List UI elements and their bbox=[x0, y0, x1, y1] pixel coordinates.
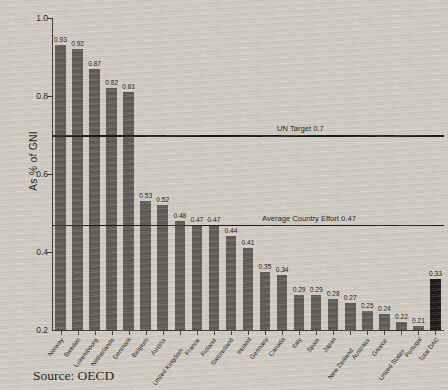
x-axis-category-label: United States bbox=[377, 347, 406, 381]
bar-value-label: 0.22 bbox=[395, 313, 408, 320]
y-axis-tick-label: 1.0 bbox=[22, 13, 48, 23]
bar bbox=[260, 272, 271, 331]
x-axis-tick-mark bbox=[384, 330, 385, 335]
x-axis-tick-mark bbox=[418, 330, 419, 335]
bar-value-label: 0.29 bbox=[293, 286, 306, 293]
reference-line-label: UN Target 0.7 bbox=[277, 124, 324, 133]
x-axis-category-label: Japan bbox=[321, 336, 337, 354]
bar bbox=[226, 236, 237, 330]
x-axis-category-label: Austria bbox=[149, 336, 167, 356]
bar bbox=[72, 49, 83, 330]
bar-value-label: 0.29 bbox=[310, 286, 323, 293]
bar-value-label: 0.33 bbox=[429, 270, 442, 277]
bar bbox=[140, 201, 151, 330]
bar-value-label: 0.81 bbox=[122, 83, 135, 90]
y-axis-tick-label: 0.8 bbox=[22, 91, 48, 101]
x-axis-tick-mark bbox=[78, 330, 79, 335]
x-axis-tick-mark bbox=[401, 330, 402, 335]
bar-value-label: 0.92 bbox=[71, 40, 84, 47]
reference-line bbox=[52, 225, 444, 227]
oda-gni-bar-chart: As % of GNI 1.00.80.60.40.2 0.930.920.87… bbox=[0, 0, 448, 390]
bar-value-label: 0.87 bbox=[88, 60, 101, 67]
x-axis-category-label: Italy bbox=[290, 336, 303, 349]
x-axis-tick-mark bbox=[231, 330, 232, 335]
bar bbox=[243, 248, 254, 330]
bar bbox=[123, 92, 134, 330]
bar bbox=[294, 295, 305, 330]
x-axis-tick-mark bbox=[214, 330, 215, 335]
x-axis-tick-mark bbox=[316, 330, 317, 335]
bar bbox=[55, 45, 66, 330]
x-axis-tick-mark bbox=[367, 330, 368, 335]
x-axis-category-label: Australia bbox=[350, 336, 371, 360]
bar bbox=[175, 221, 186, 330]
y-axis-tick-label: 0.4 bbox=[22, 247, 48, 257]
y-axis-tick-label: 0.2 bbox=[22, 325, 48, 335]
bar-value-label: 0.47 bbox=[190, 216, 203, 223]
bar-value-label: 0.27 bbox=[344, 294, 357, 301]
x-axis-tick-mark bbox=[435, 330, 436, 335]
bar bbox=[106, 88, 117, 330]
bar bbox=[379, 314, 390, 330]
x-axis-tick-mark bbox=[299, 330, 300, 335]
bar bbox=[430, 279, 441, 330]
x-axis-tick-mark bbox=[333, 330, 334, 335]
bar bbox=[328, 299, 339, 330]
x-axis-tick-mark bbox=[282, 330, 283, 335]
y-axis-title: As % of GNI bbox=[27, 106, 39, 216]
x-axis-category-label: New Zealand bbox=[326, 347, 354, 381]
x-axis-tick-mark bbox=[350, 330, 351, 335]
bar bbox=[209, 225, 220, 330]
x-axis-category-label: Greece bbox=[370, 336, 388, 357]
bar-value-label: 0.47 bbox=[207, 216, 220, 223]
x-axis-tick-mark bbox=[146, 330, 147, 335]
reference-line-label: Average Country Effort 0.47 bbox=[262, 214, 356, 223]
bar-value-label: 0.25 bbox=[361, 302, 374, 309]
bar-value-label: 0.93 bbox=[54, 36, 67, 43]
bar-value-label: 0.82 bbox=[105, 79, 118, 86]
x-axis-category-label: Spain bbox=[305, 336, 320, 353]
bar-value-label: 0.53 bbox=[139, 192, 152, 199]
x-axis-category-label: Belgium bbox=[130, 336, 150, 358]
x-axis-tick-mark bbox=[197, 330, 198, 335]
bar-value-label: 0.41 bbox=[242, 239, 255, 246]
bar-value-label: 0.24 bbox=[378, 305, 391, 312]
bar-value-label: 0.52 bbox=[156, 196, 169, 203]
x-axis-tick-mark bbox=[265, 330, 266, 335]
x-axis-tick-mark bbox=[180, 330, 181, 335]
x-axis-tick-mark bbox=[61, 330, 62, 335]
bar bbox=[362, 311, 373, 331]
bar bbox=[277, 275, 288, 330]
bar-value-label: 0.34 bbox=[276, 266, 289, 273]
x-axis-tick-mark bbox=[163, 330, 164, 335]
x-axis-tick-mark bbox=[95, 330, 96, 335]
bar-value-label: 0.44 bbox=[225, 227, 238, 234]
bar bbox=[89, 69, 100, 330]
bar bbox=[396, 322, 407, 330]
bar bbox=[311, 295, 322, 330]
bar bbox=[345, 303, 356, 330]
bar-value-label: 0.35 bbox=[259, 263, 272, 270]
bar-value-label: 0.28 bbox=[327, 290, 340, 297]
y-axis-tick-label: 0.6 bbox=[22, 169, 48, 179]
x-axis-category-label: France bbox=[183, 336, 201, 356]
source-caption: Source: OECD bbox=[33, 368, 114, 384]
plot-area: 0.930.920.870.820.810.530.520.480.470.47… bbox=[52, 18, 444, 330]
bar bbox=[192, 225, 203, 330]
reference-line bbox=[52, 135, 444, 137]
x-axis-tick-mark bbox=[112, 330, 113, 335]
x-axis-tick-mark bbox=[248, 330, 249, 335]
x-axis-tick-mark bbox=[129, 330, 130, 335]
bar-value-label: 0.21 bbox=[412, 317, 425, 324]
bar-value-label: 0.48 bbox=[173, 212, 186, 219]
